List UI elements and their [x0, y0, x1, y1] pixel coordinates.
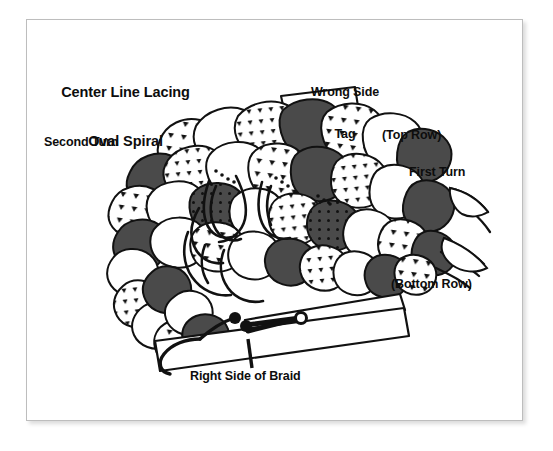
label-first-turn: First Turn [409, 165, 465, 179]
label-top-row: (Top Row) [382, 128, 441, 142]
label-wrong-side-tag-line-1: Wrong Side [295, 85, 395, 99]
label-bottom-row: (Bottom Row) [391, 277, 472, 291]
label-second-turn: Second Turn [44, 135, 118, 149]
label-wrong-side-tag: Wrong Side Tag [295, 57, 395, 169]
title-line-1: Center Line Lacing [38, 84, 213, 100]
page-title: Center Line Lacing Oval Spiral [38, 52, 213, 182]
diagram-screenshot: Center Line Lacing Oval Spiral Second Tu… [0, 0, 553, 451]
label-right-side-of-braid: Right Side of Braid [190, 369, 301, 383]
label-wrong-side-tag-line-2: Tag [295, 127, 395, 141]
